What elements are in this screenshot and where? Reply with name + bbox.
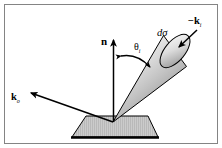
diagram-canvas: n θi dσ −ki ko bbox=[0, 0, 222, 148]
normal-vector-label: n bbox=[101, 35, 107, 47]
incident-direction-symbol: −k bbox=[188, 15, 200, 26]
scattering-diagram-figure: n θi dσ −ki ko bbox=[0, 0, 222, 148]
incident-direction-label: −ki bbox=[188, 15, 202, 28]
outgoing-direction-subscript: o bbox=[17, 98, 20, 104]
differential-cross-section-label: dσ bbox=[157, 27, 168, 38]
